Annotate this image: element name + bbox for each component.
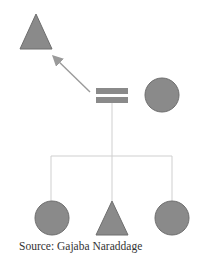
circle-icon-spouse xyxy=(145,78,179,112)
equals-bar-top xyxy=(96,88,128,94)
source-caption: Source: Gajaba Naraddage xyxy=(19,240,142,252)
triangle-icon-child xyxy=(96,201,128,235)
kinship-diagram xyxy=(0,0,200,256)
circle-icon-child-right xyxy=(155,201,189,235)
arrow-line xyxy=(54,57,90,92)
equals-bar-bottom xyxy=(96,97,128,103)
triangle-icon-top xyxy=(20,14,52,49)
circle-icon-child-left xyxy=(35,201,69,235)
